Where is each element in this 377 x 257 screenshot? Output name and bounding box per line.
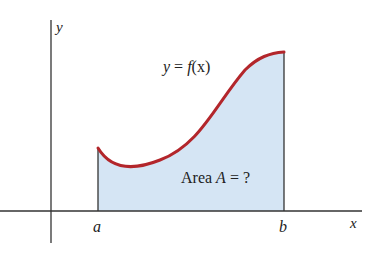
y-axis-label: y: [54, 19, 63, 35]
curve-label-arg: (x): [192, 58, 211, 76]
area-under-curve-diagram: y x a b y = f(x) Area A = ?: [0, 0, 377, 257]
shaded-area-region: [98, 52, 284, 211]
area-label-word: Area: [181, 169, 216, 186]
bound-b-label: b: [279, 218, 287, 235]
area-label-rest: = ?: [226, 169, 250, 186]
x-axis-label: x: [349, 215, 357, 231]
area-label: Area A = ?: [181, 169, 250, 186]
curve-label-eq: =: [170, 58, 187, 75]
area-label-var: A: [215, 169, 226, 186]
bound-a-label: a: [93, 218, 101, 235]
curve-label: y = f(x): [161, 58, 210, 76]
